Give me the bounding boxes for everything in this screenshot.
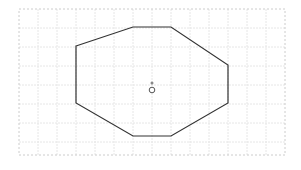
- center-point-icon: [151, 82, 154, 85]
- rotation-handle[interactable]: [149, 87, 155, 93]
- drawing-canvas[interactable]: [0, 0, 301, 170]
